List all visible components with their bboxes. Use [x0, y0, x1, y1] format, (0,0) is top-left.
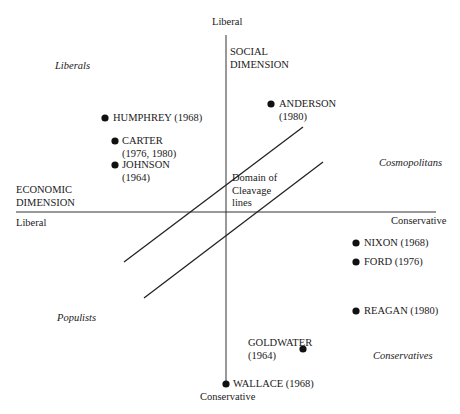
goldwater-name: GOLDWATER [248, 337, 312, 350]
economic-axis-name-line1: ECONOMIC [16, 184, 75, 197]
dot-carter [111, 137, 118, 144]
social-axis-top-label: Liberal [212, 16, 242, 29]
carter-name: CARTER [122, 135, 176, 148]
candidate-label-anderson: ANDERSON (1980) [279, 98, 336, 123]
social-axis-name-line2: DIMENSION [230, 59, 289, 72]
social-axis-name-line1: SOCIAL [230, 46, 289, 59]
candidate-label-reagan: REAGAN (1980) [364, 305, 438, 318]
dot-ford [352, 258, 359, 265]
goldwater-years: (1964) [248, 350, 312, 363]
candidate-label-nixon: NIXON (1968) [364, 237, 428, 250]
anderson-name: ANDERSON [279, 98, 336, 111]
dot-nixon [352, 239, 359, 246]
johnson-years: (1964) [122, 172, 170, 185]
cleavage-label-line1: Domain of [232, 172, 277, 185]
johnson-name: JOHNSON [122, 159, 170, 172]
social-axis-name: SOCIAL DIMENSION [230, 46, 289, 71]
quadrant-conservatives: Conservatives [373, 350, 433, 363]
candidate-label-wallace: WALLACE (1968) [233, 378, 314, 391]
candidate-label-goldwater: GOLDWATER (1964) [248, 337, 312, 362]
economic-axis-right-label: Conservative [391, 215, 446, 228]
dot-anderson [267, 100, 274, 107]
candidate-label-johnson: JOHNSON (1964) [122, 159, 170, 184]
dot-johnson [111, 161, 118, 168]
quadrant-populists: Populists [57, 312, 96, 325]
cleavage-label-line3: lines [232, 197, 277, 210]
candidate-label-ford: FORD (1976) [364, 256, 423, 269]
social-axis-bottom-label: Conservative [200, 391, 255, 404]
candidate-label-carter: CARTER (1976, 1980) [122, 135, 176, 160]
candidate-label-humphrey: HUMPHREY (1968) [113, 112, 202, 125]
economic-axis-name-line2: DIMENSION [16, 197, 75, 210]
cleavage-domain-label: Domain of Cleavage lines [232, 172, 277, 210]
economic-axis-left-label: Liberal [16, 217, 46, 230]
quadrant-liberals: Liberals [55, 60, 90, 73]
dot-humphrey [101, 114, 108, 121]
dot-reagan [352, 307, 359, 314]
cleavage-label-line2: Cleavage [232, 185, 277, 198]
economic-axis-name: ECONOMIC DIMENSION [16, 184, 75, 209]
dot-wallace [222, 380, 229, 387]
anderson-years: (1980) [279, 111, 336, 124]
quadrant-cosmopolitans: Cosmopolitans [379, 157, 442, 170]
